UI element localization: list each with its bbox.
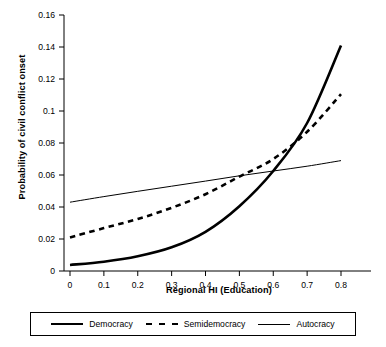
y-tick-label: 0.06: [38, 170, 55, 180]
dashed-line-icon: [146, 320, 178, 328]
data-series-group: [70, 45, 341, 265]
y-tick-label: 0.04: [38, 202, 55, 212]
plot-area-container: 00.020.040.060.080.10.120.140.16 00.10.2…: [0, 0, 386, 300]
y-tick-label: 0.1: [43, 106, 55, 116]
legend-label: Autocracy: [296, 319, 334, 329]
series-line-autocracy: [70, 161, 341, 203]
y-tick-label: 0.16: [38, 10, 55, 20]
legend-label: Democracy: [89, 319, 132, 329]
series-line-semidemocracy: [70, 94, 341, 237]
x-axis-title: Regional HI (Education): [64, 285, 374, 295]
y-tick-label: 0.02: [38, 234, 55, 244]
legend-items-container: DemocracySemidemocracyAutocracy: [31, 313, 355, 335]
y-tick-label: 0.08: [38, 138, 55, 148]
series-line-democracy: [70, 45, 341, 265]
y-axis-title: Probability of civil conflict onset: [17, 9, 27, 245]
y-tick-label: 0.12: [38, 74, 55, 84]
chart-legend: DemocracySemidemocracyAutocracy: [30, 312, 356, 336]
legend-item-democracy[interactable]: Democracy: [51, 319, 132, 329]
chart-figure: 00.020.040.060.080.10.120.140.16 00.10.2…: [0, 0, 386, 347]
legend-item-autocracy[interactable]: Autocracy: [258, 319, 334, 329]
thin-solid-line-icon: [258, 320, 290, 328]
legend-label: Semidemocracy: [184, 319, 246, 329]
axes: [64, 15, 371, 271]
y-tick-label: 0.14: [38, 42, 55, 52]
legend-item-semidemocracy[interactable]: Semidemocracy: [146, 319, 246, 329]
thick-solid-line-icon: [51, 320, 83, 328]
y-axis-ticks: 00.020.040.060.080.10.120.140.16: [38, 10, 64, 276]
y-tick-label: 0: [50, 266, 55, 276]
chart-svg: 00.020.040.060.080.10.120.140.16 00.10.2…: [0, 0, 386, 300]
